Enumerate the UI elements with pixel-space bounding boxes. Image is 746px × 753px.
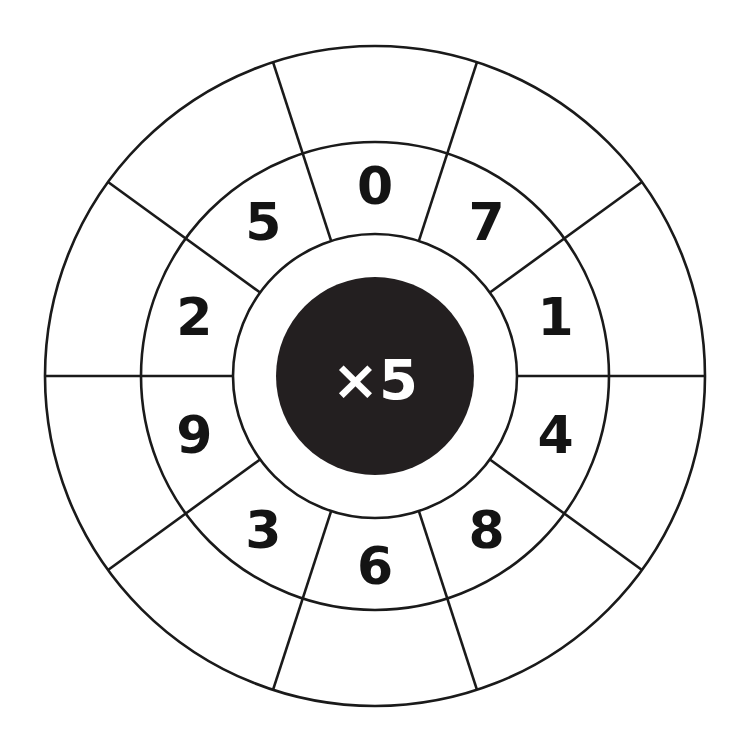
answer-cell[interactable] (273, 599, 477, 706)
factor-digit: 4 (538, 405, 574, 465)
wheel-diagram: 0714863925 ×5 (0, 0, 746, 753)
factor-digit: 7 (469, 192, 505, 252)
answer-cell[interactable] (273, 46, 477, 153)
factor-digit: 9 (176, 405, 212, 465)
multiplication-wheel-worksheet: 0714863925 ×5 (0, 0, 746, 753)
factor-digit: 5 (245, 192, 281, 252)
factor-digit: 6 (357, 536, 393, 596)
factor-digit: 1 (538, 287, 574, 347)
factor-digit: 0 (357, 156, 393, 216)
hub-label: ×5 (332, 347, 418, 412)
factor-digit: 2 (176, 287, 212, 347)
factor-digit: 3 (245, 500, 281, 560)
factor-digit: 8 (469, 500, 505, 560)
